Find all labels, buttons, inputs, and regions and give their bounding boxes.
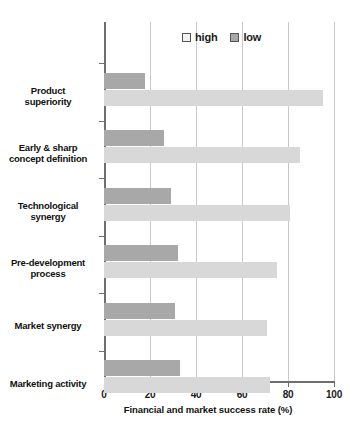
bar-low-early-sharp-concept-definition [104,130,164,146]
bar-low-marketing-activity [104,360,180,376]
category-label-line2: superiority [0,96,96,107]
bar-low-technological-synergy [104,188,171,204]
category-label-early-sharp-concept-definition: Early & sharp concept definition [0,142,96,164]
x-tick-label-80: 80 [273,389,303,400]
legend-label-low: low [243,31,261,43]
legend-item-high: high [182,31,217,43]
x-tick-80 [288,382,289,387]
category-label-market-synergy: Market synergy [0,320,96,331]
x-tick-label-100: 100 [319,389,349,400]
bar-chart: 0 20 40 60 80 100 Product superiority Ea… [0,0,360,431]
category-label-line1: Product [0,85,96,96]
category-label-line1: Pre-development [0,257,96,268]
bar-high-marketing-activity [104,377,270,393]
category-label-pre-development-process: Pre-development process [0,257,96,279]
bar-low-pre-development-process [104,245,178,261]
category-label-line2: concept definition [0,153,96,164]
legend-swatch-high-icon [182,33,191,42]
legend-swatch-low-icon [230,33,239,42]
bar-high-product-superiority [104,90,323,106]
category-label-product-superiority: Product superiority [0,85,96,107]
bar-high-early-sharp-concept-definition [104,147,300,163]
gridline-100 [334,22,335,381]
category-label-line2: process [0,268,96,279]
category-label-line1: Marketing activity [0,378,96,389]
category-label-line1: Technological [0,200,96,211]
legend-label-high: high [195,31,217,43]
bar-high-technological-synergy [104,205,290,221]
category-label-line2: synergy [0,211,96,222]
bar-low-market-synergy [104,303,175,319]
x-axis-title: Financial and market success rate (%) [0,404,360,415]
plot-area [104,22,334,382]
category-label-line1: Market synergy [0,320,96,331]
legend-item-low: low [230,31,261,43]
legend: high low [182,31,261,43]
bar-low-product-superiority [104,73,145,89]
category-label-line1: Early & sharp [0,142,96,153]
category-label-technological-synergy: Technological synergy [0,200,96,222]
bar-high-pre-development-process [104,262,277,278]
bar-high-market-synergy [104,320,267,336]
x-tick-100 [334,382,335,387]
category-label-marketing-activity: Marketing activity [0,378,96,389]
